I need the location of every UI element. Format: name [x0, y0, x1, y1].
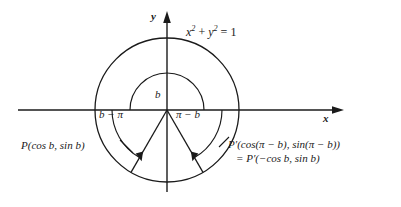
x-axis-arrowhead [332, 106, 344, 114]
angle-pi-minus-b-label: π − b [176, 108, 200, 121]
unit-circle-diagram: x2 + y2 = 1 y x b b − π π − b P(cos b, s… [0, 0, 401, 207]
point-p-prime-label: P′(cos(π − b), sin(π − b)) [228, 138, 340, 151]
point-p-label: P(cos b, sin b) [21, 139, 85, 152]
circle-equation-label: x2 + y2 = 1 [186, 24, 236, 40]
y-axis-arrowhead [163, 11, 171, 23]
point-p-leader [120, 140, 133, 153]
circle-equation-plus: + [195, 25, 208, 39]
angle-b-minus-pi-label: b − π [99, 108, 123, 121]
angle-b-label: b [155, 88, 161, 101]
point-p-prime-alt-label: = P′(−cos b, sin b) [236, 152, 320, 165]
x-axis-label: x [323, 112, 329, 125]
ray-to-p [131, 110, 167, 172]
circle-equation-one: 1 [230, 25, 236, 39]
circle-equation-equals: = [218, 25, 231, 39]
y-axis-label: y [151, 10, 156, 23]
